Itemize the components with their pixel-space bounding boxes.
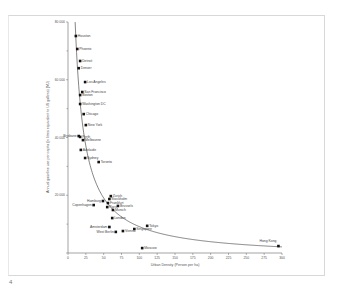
city-label: Singapore (136, 227, 152, 231)
x-tick-label: 0 (67, 256, 69, 260)
data-point: Los Angeles (84, 80, 106, 84)
y-tick-label: 20 000 (55, 193, 65, 197)
scatter-chart: 025507510012515017520022525027530020 000… (0, 0, 337, 288)
data-point: Moscow (141, 246, 157, 250)
data-point: Brisbane (63, 134, 80, 138)
data-point: Copenhagen (72, 203, 95, 207)
x-tick-label: 300 (279, 256, 285, 260)
city-label: Munich (115, 208, 126, 212)
x-axis-title: Urban Density (Person per ha) (151, 263, 200, 267)
city-label: Phoenix (79, 47, 92, 51)
data-point: West Berlin (97, 230, 118, 234)
trend-curve (75, 22, 282, 247)
data-point: Munich (112, 208, 126, 212)
x-tick-label: 150 (172, 256, 178, 260)
x-tick-label: 100 (136, 256, 142, 260)
data-point: Chicago (82, 112, 98, 116)
x-tick-label: 175 (190, 256, 196, 260)
data-point: Boston (79, 93, 93, 97)
data-points: HoustonPhoenixDetroitDenverLos AngelesSa… (63, 34, 279, 250)
city-label: Adelaide (83, 148, 96, 152)
data-point: Phoenix (76, 47, 92, 51)
data-point: Toronto (97, 160, 112, 164)
data-point: Melbourne (82, 138, 101, 142)
x-tick-label: 275 (261, 256, 267, 260)
city-label: Sydney (87, 156, 99, 160)
data-point: Sydney (84, 156, 99, 160)
x-tick-label: 75 (120, 256, 124, 260)
city-label: Houston (78, 34, 91, 38)
x-tick-label: 50 (102, 256, 106, 260)
city-label: Melbourne (85, 138, 101, 142)
city-label: Moscow (144, 246, 157, 250)
x-tick-label: 200 (208, 256, 214, 260)
city-label: Detroit (82, 59, 92, 63)
data-point: Singapore (133, 227, 152, 231)
x-tick-label: 225 (226, 256, 232, 260)
y-tick-label: 80 000 (55, 20, 65, 24)
city-label: Denver (81, 66, 93, 70)
data-point: Houston (75, 34, 91, 38)
data-point: Adelaide (80, 148, 97, 152)
city-label: London (114, 216, 125, 220)
city-label: Amsterdam (90, 225, 108, 229)
x-tick-label: 25 (84, 256, 88, 260)
city-label: Washington DC (82, 102, 106, 106)
city-label: Copenhagen (72, 203, 92, 207)
y-tick-label: 60 000 (55, 78, 65, 82)
y-axis-title: Annual gasoline use per capita (in litre… (46, 81, 50, 193)
data-point: Denver (77, 66, 92, 70)
city-label: Boston (82, 93, 93, 97)
city-label: West Berlin (97, 230, 114, 234)
x-tick-label: 125 (154, 256, 160, 260)
data-point: Detroit (79, 59, 92, 63)
data-point: New York (85, 123, 103, 127)
data-point: Washington DC (79, 102, 106, 106)
city-label: Los Angeles (87, 80, 106, 84)
city-label: New York (88, 123, 103, 127)
x-tick-label: 250 (243, 256, 249, 260)
city-label: Chicago (86, 112, 99, 116)
data-point: Vienna (122, 229, 136, 233)
city-label: Hong Kong (259, 239, 276, 243)
city-label: Brisbane (63, 134, 76, 138)
page-number: 4 (9, 279, 12, 285)
data-point: London (111, 216, 126, 220)
data-point: Amsterdam (90, 225, 111, 229)
city-label: Toronto (101, 160, 112, 164)
city-label: Vienna (125, 229, 136, 233)
